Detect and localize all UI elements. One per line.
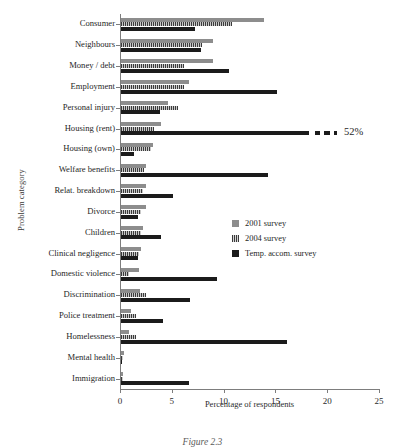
bar — [121, 48, 201, 52]
bar — [121, 351, 124, 355]
x-axis-tick — [172, 389, 173, 393]
bar — [121, 110, 160, 114]
bar — [121, 189, 143, 193]
bar — [121, 101, 168, 105]
bar-break-segment — [315, 131, 320, 135]
figure-bar-chart: Problem category 0510152025ConsumerNeigh… — [0, 0, 405, 447]
bar — [121, 215, 138, 219]
category-label: Employment — [0, 81, 115, 91]
bar — [121, 131, 309, 135]
category-label: Immigration — [0, 373, 115, 383]
x-axis-tick — [224, 389, 225, 393]
bar — [121, 194, 173, 198]
legend-swatch-2004-icon — [232, 235, 239, 242]
chart-legend: 2001 survey 2004 survey Temp. accom. sur… — [232, 216, 317, 261]
bar — [121, 231, 141, 235]
legend-item-temp-accom: Temp. accom. survey — [232, 246, 317, 261]
bar-group: Employment — [120, 80, 379, 93]
category-label: Money / debt — [0, 60, 115, 70]
category-label: Discrimination — [0, 289, 115, 299]
legend-label-2001: 2001 survey — [245, 219, 286, 228]
bar — [121, 252, 139, 256]
bar-group: Immigration — [120, 372, 379, 385]
category-label: Domestic violence — [0, 268, 115, 278]
bar — [121, 143, 153, 147]
legend-label-2004: 2004 survey — [245, 234, 286, 243]
bar — [121, 59, 213, 63]
bar — [121, 64, 184, 68]
bar — [121, 27, 195, 31]
category-label: Neighbours — [0, 39, 115, 49]
bar — [121, 298, 190, 302]
bar — [121, 147, 151, 151]
bar-group: Consumer — [120, 18, 379, 31]
bar — [121, 18, 264, 22]
x-axis-tick — [379, 389, 380, 393]
bar — [121, 256, 138, 260]
bar — [121, 372, 123, 376]
x-axis-line — [120, 389, 379, 390]
bar — [121, 289, 140, 293]
x-axis-tick — [120, 389, 121, 393]
bar — [121, 314, 136, 318]
category-label: Personal injury — [0, 102, 115, 112]
category-label: Mental health — [0, 352, 115, 362]
x-axis-tick — [275, 389, 276, 393]
bar — [121, 319, 163, 323]
bar — [121, 69, 229, 73]
legend-item-2004: 2004 survey — [232, 231, 317, 246]
bar — [121, 22, 232, 26]
category-label: Clinical negligence — [0, 248, 115, 258]
bar — [121, 277, 217, 281]
legend-label-temp-accom: Temp. accom. survey — [245, 249, 317, 258]
bar — [121, 356, 123, 360]
bar-value-annotation: 52% — [344, 126, 363, 137]
legend-swatch-2001-icon — [232, 220, 239, 227]
bar — [121, 90, 277, 94]
bar — [121, 127, 154, 131]
bar — [121, 272, 129, 276]
bar — [121, 340, 287, 344]
bar-group: Discrimination — [120, 289, 379, 302]
category-label: Consumer — [0, 18, 115, 28]
bar — [121, 247, 141, 251]
bar-group: Housing (rent)52% — [120, 122, 379, 135]
bar-group: Neighbours — [120, 39, 379, 52]
bar — [121, 106, 178, 110]
bar — [121, 205, 146, 209]
category-label: Police treatment — [0, 310, 115, 320]
bar — [121, 309, 131, 313]
legend-swatch-temp-accom-icon — [232, 250, 239, 257]
category-label: Welfare benefits — [0, 164, 115, 174]
bar — [121, 122, 161, 126]
bar — [121, 381, 189, 385]
bar — [121, 80, 189, 84]
category-label: Homelessness — [0, 331, 115, 341]
bar — [121, 210, 141, 214]
bar — [121, 235, 161, 239]
bar — [121, 164, 146, 168]
bar — [121, 173, 268, 177]
bar-group: Personal injury — [120, 101, 379, 114]
legend-item-2001: 2001 survey — [232, 216, 317, 231]
bar-group: Money / debt — [120, 59, 379, 72]
figure-caption: Figure 2.3 — [0, 437, 405, 447]
bar — [121, 85, 184, 89]
category-label: Relat. breakdown — [0, 185, 115, 195]
bar — [121, 293, 146, 297]
bar-group: Police treatment — [120, 309, 379, 322]
bar-group: Mental health — [120, 351, 379, 364]
bar-group: Housing (own) — [120, 143, 379, 156]
bar — [121, 360, 122, 364]
bar — [121, 377, 123, 381]
bar-group: Relat. breakdown — [120, 184, 379, 197]
bar-group: Welfare benefits — [120, 164, 379, 177]
bar-break-segment — [334, 131, 337, 135]
category-label: Children — [0, 227, 115, 237]
bar — [121, 184, 146, 188]
x-axis-tick — [327, 389, 328, 393]
plot-area: 0510152025ConsumerNeighboursMoney / debt… — [120, 14, 379, 389]
category-label: Divorce — [0, 206, 115, 216]
bar — [121, 43, 202, 47]
bar-break-segment — [324, 131, 330, 135]
